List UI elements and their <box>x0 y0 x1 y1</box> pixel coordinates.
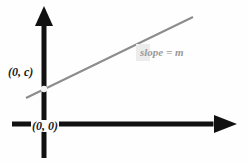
intercept-dot-icon <box>41 86 47 92</box>
origin-label: (0, 0) <box>31 120 59 132</box>
y-intercept-label: (0, c) <box>8 66 33 78</box>
y-axis <box>35 6 53 158</box>
x-axis-line <box>42 122 214 127</box>
y-intercept-marker <box>41 86 47 92</box>
slope-label: slope = m <box>140 47 184 58</box>
line-graph-figure: (0, c) (0, 0) slope = m <box>0 0 247 162</box>
y-axis-arrowhead-icon <box>35 6 53 26</box>
x-axis-left-stub <box>12 122 31 127</box>
x-axis-arrowhead-icon <box>214 115 237 133</box>
graph-canvas <box>0 0 247 162</box>
